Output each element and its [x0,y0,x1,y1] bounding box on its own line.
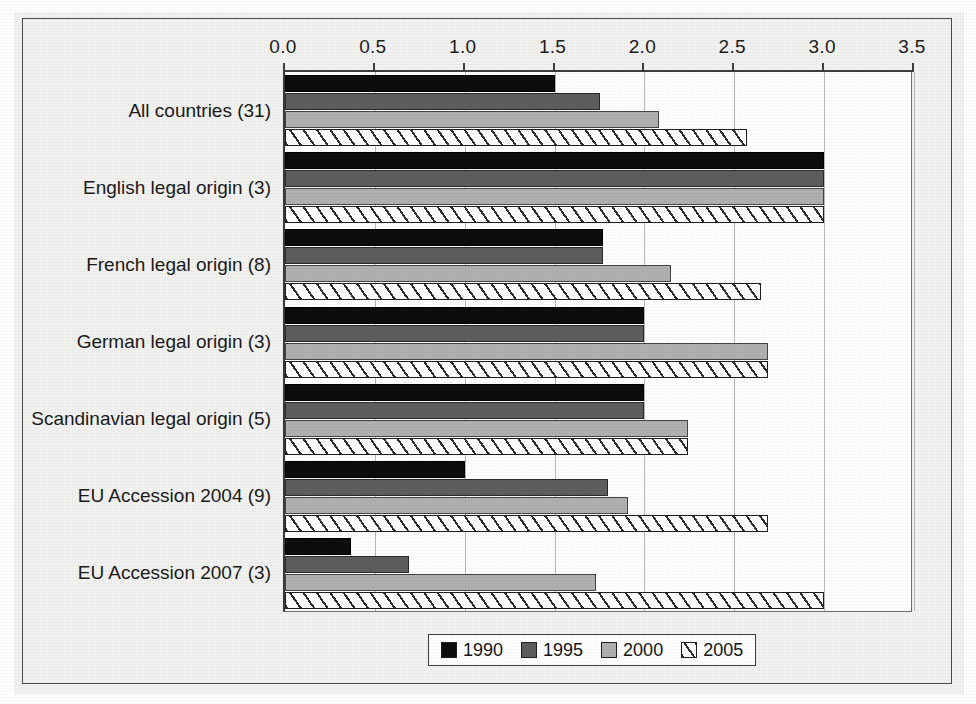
legend-label: 1995 [543,640,583,661]
bar-2000 [285,574,596,591]
x-axis-tick [553,63,555,72]
x-axis-tick [373,63,375,72]
bar-1995 [285,325,644,342]
legend-item-2005: 2005 [681,640,743,661]
bar-2005 [285,283,761,300]
category-label: EU Accession 2004 (9) [78,485,271,507]
plot-area [283,72,912,612]
legend-swatch-icon [601,642,617,658]
y-axis-category-labels: All countries (31)English legal origin (… [0,72,271,612]
bar-1990 [285,75,555,92]
chart-legend: 1990199520002005 [428,634,756,666]
legend-item-1990: 1990 [441,640,503,661]
page-margin-left [0,0,14,704]
bar-2000 [285,265,671,282]
legend-swatch-icon [681,642,697,658]
legend-label: 2000 [623,640,663,661]
bar-2000 [285,111,659,128]
x-axis-tick-label: 2.0 [607,36,677,58]
legend-swatch-icon [441,642,457,658]
bar-2005 [285,206,824,223]
x-axis-tick-label: 0.0 [248,36,318,58]
category-label: EU Accession 2007 (3) [78,562,271,584]
x-axis-tick [912,63,914,72]
page-margin-top [0,0,976,12]
bar-1995 [285,556,409,573]
gridline [914,72,915,611]
bar-2000 [285,343,768,360]
bar-group [285,307,911,378]
x-axis-tick [283,63,285,72]
bar-2005 [285,515,768,532]
category-label: French legal origin (8) [86,254,271,276]
x-axis-tick [822,63,824,72]
x-axis-tick [463,63,465,72]
legend-label: 1990 [463,640,503,661]
category-label: Scandinavian legal origin (5) [31,408,271,430]
x-axis-line [283,70,912,72]
bar-2005 [285,592,824,609]
x-axis-tick [732,63,734,72]
x-axis-tick-label: 2.5 [697,36,767,58]
x-axis-tick-label: 3.0 [787,36,857,58]
bar-2005 [285,361,768,378]
bar-2000 [285,188,824,205]
bar-1990 [285,307,644,324]
x-axis-tick-label: 1.5 [518,36,588,58]
category-label: German legal origin (3) [77,331,271,353]
page-margin-bottom [0,694,976,704]
legend-label: 2005 [703,640,743,661]
figure-page: 0.00.51.01.52.02.53.03.5 All countries (… [0,0,976,704]
bar-1995 [285,93,600,110]
x-axis-tick-label: 0.5 [338,36,408,58]
bar-group [285,461,911,532]
bar-1990 [285,538,351,555]
bar-1990 [285,152,824,169]
bar-1990 [285,384,644,401]
page-margin-right [964,0,976,704]
bar-1995 [285,402,644,419]
bar-group [285,229,911,300]
legend-swatch-icon [521,642,537,658]
bar-group [285,538,911,609]
bar-2000 [285,497,628,514]
bar-2000 [285,420,688,437]
category-label: All countries (31) [128,100,271,122]
bar-1995 [285,479,608,496]
legend-item-2000: 2000 [601,640,663,661]
legend-item-1995: 1995 [521,640,583,661]
bar-2005 [285,438,688,455]
bar-1995 [285,170,824,187]
bar-group [285,152,911,223]
x-axis-tick [642,63,644,72]
category-label: English legal origin (3) [83,177,271,199]
bar-1990 [285,229,603,246]
x-axis-tick-label: 3.5 [877,36,947,58]
bar-group [285,384,911,455]
bar-group [285,75,911,146]
x-axis-tick-label: 1.0 [428,36,498,58]
bar-1995 [285,247,603,264]
bar-1990 [285,461,465,478]
bar-2005 [285,129,747,146]
